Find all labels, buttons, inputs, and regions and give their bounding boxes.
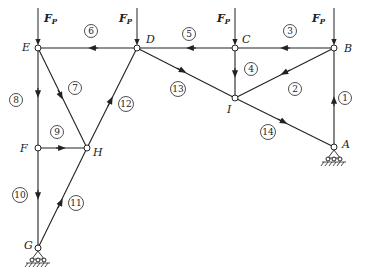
node-F	[35, 145, 41, 151]
node-labels: E D C B I A F H G	[19, 33, 352, 252]
member-label-2: 2	[292, 84, 298, 94]
member-label-9: 9	[54, 127, 60, 137]
node-label-H: H	[92, 146, 103, 159]
member-label-1: 1	[342, 93, 348, 103]
node-C	[232, 45, 238, 51]
member-label-12: 12	[120, 99, 131, 109]
node-label-D: D	[145, 33, 155, 46]
load-label-D: FP	[118, 12, 133, 26]
node-B	[331, 45, 337, 51]
member-label-5: 5	[186, 29, 192, 39]
load-label-B: FP	[311, 12, 326, 26]
member-label-11: 11	[70, 198, 81, 208]
member-labels: 1 2 3 4 5 6 7 8 9 10 11 12 13 14	[10, 25, 352, 211]
member-label-3: 3	[287, 26, 293, 36]
arrow-icon	[108, 100, 111, 106]
member-label-6: 6	[88, 26, 94, 36]
member-label-14: 14	[262, 127, 274, 137]
node-label-F: F	[19, 142, 28, 155]
member-label-13: 13	[172, 84, 184, 94]
member-14	[235, 98, 334, 147]
member-label-10: 10	[14, 190, 26, 200]
arrow-icon	[284, 70, 290, 73]
node-label-C: C	[242, 33, 251, 46]
truss-diagram: FP FP FP FP	[0, 0, 365, 274]
arrow-icon	[278, 119, 284, 122]
node-label-E: E	[21, 41, 30, 54]
members	[38, 48, 334, 248]
node-H	[84, 145, 90, 151]
node-A	[331, 144, 337, 150]
node-label-I: I	[226, 103, 232, 116]
member-12	[87, 48, 137, 148]
member-7	[38, 48, 87, 148]
load-label-C: FP	[216, 12, 231, 26]
member-13	[137, 48, 235, 98]
load-label-E: FP	[43, 12, 58, 26]
member-label-7: 7	[72, 83, 78, 93]
node-label-G: G	[24, 239, 33, 252]
node-E	[35, 45, 41, 51]
member-label-4: 4	[248, 64, 254, 74]
support-G	[25, 251, 50, 267]
member-label-8: 8	[13, 95, 19, 105]
member-direction-arrows	[38, 48, 334, 208]
node-label-A: A	[341, 138, 350, 151]
node-label-B: B	[343, 42, 352, 55]
node-G	[35, 245, 41, 251]
node-D	[134, 45, 140, 51]
support-A	[321, 150, 346, 166]
node-I	[232, 95, 238, 101]
